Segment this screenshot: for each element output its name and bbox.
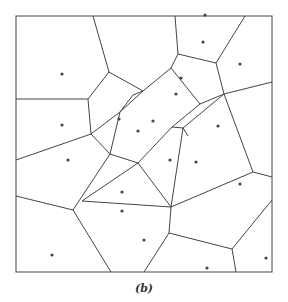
voronoi-edge (183, 128, 188, 136)
voronoi-edge (138, 163, 171, 207)
site-point (238, 182, 241, 185)
voronoi-edge (224, 82, 272, 94)
site-point (142, 238, 145, 241)
voronoi-edge (82, 201, 171, 207)
site-point (151, 119, 154, 122)
site-point (60, 72, 63, 75)
voronoi-edge (144, 233, 169, 272)
voronoi-edge (200, 94, 224, 104)
site-point (216, 124, 219, 127)
voronoi-edge (110, 154, 138, 163)
voronoi-edge (171, 128, 183, 207)
site-point (50, 253, 53, 256)
voronoi-diagram (0, 0, 288, 302)
voronoi-edge (16, 196, 73, 210)
voronoi-edge (169, 233, 232, 249)
voronoi-edge (171, 172, 253, 207)
site-point (168, 158, 171, 161)
voronoi-edge (172, 127, 183, 128)
site-point (203, 13, 206, 16)
site-point (264, 256, 267, 259)
voronoi-edge (91, 134, 110, 154)
site-point (117, 117, 120, 120)
voronoi-edge (73, 210, 111, 272)
voronoi-edge (253, 172, 272, 177)
voronoi-edge (138, 127, 172, 163)
voronoi-edge (171, 68, 200, 104)
bounding-box (16, 16, 272, 272)
voronoi-edge (88, 99, 91, 134)
figure-caption: (b) (0, 282, 288, 295)
site-point (66, 158, 69, 161)
voronoi-edge (183, 94, 224, 128)
voronoi-edge (82, 163, 138, 201)
site-point (205, 266, 208, 269)
voronoi-edge (232, 200, 272, 249)
voronoi-edge (169, 207, 171, 233)
voronoi-edge (232, 249, 236, 272)
site-point (60, 123, 63, 126)
voronoi-edge (120, 91, 143, 112)
site-point (120, 209, 123, 212)
site-point (194, 160, 197, 163)
site-point (136, 129, 139, 132)
voronoi-edge (120, 95, 133, 112)
voronoi-edge (172, 104, 200, 127)
voronoi-edge (16, 134, 91, 160)
voronoi-edge (171, 54, 178, 68)
site-point (120, 190, 123, 193)
voronoi-edge (143, 68, 171, 91)
voronoi-edge (93, 16, 109, 72)
site-point (174, 92, 177, 95)
voronoi-edges (16, 16, 272, 272)
voronoi-sites (50, 13, 267, 269)
site-point (238, 62, 241, 65)
voronoi-edge (88, 72, 109, 99)
site-point (179, 76, 182, 79)
voronoi-edge (224, 94, 253, 172)
voronoi-edge (109, 72, 143, 91)
voronoi-edge (216, 63, 224, 94)
voronoi-edge (178, 54, 216, 63)
voronoi-edge (175, 16, 178, 54)
site-point (201, 40, 204, 43)
voronoi-edge (216, 16, 245, 63)
